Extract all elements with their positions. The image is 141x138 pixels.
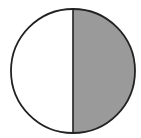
fraction-circle-diagram [0, 0, 141, 138]
shaded-half [73, 9, 135, 133]
unshaded-half [11, 9, 73, 133]
